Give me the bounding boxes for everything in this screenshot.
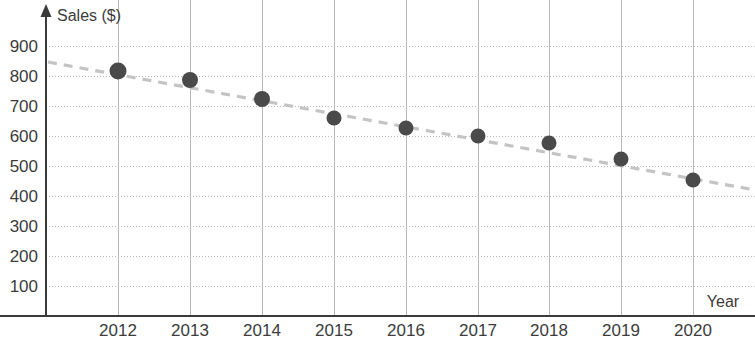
data-point[interactable] [686,173,701,188]
y-tick-label: 400 [10,187,38,206]
x-tick-label: 2014 [243,321,281,340]
data-point[interactable] [182,72,198,88]
x-axis-title: Year [707,293,740,310]
y-tick-label: 100 [10,277,38,296]
data-points [110,63,701,188]
x-tick-label: 2016 [387,321,425,340]
y-tick-label: 500 [10,157,38,176]
data-point[interactable] [254,91,270,107]
chart-screenshot: 100 200 300 400 500 600 700 800 900 2012… [0,0,755,342]
y-axis-arrow-icon [41,4,52,17]
x-tick-label: 2018 [530,321,568,340]
x-tick-label: 2012 [99,321,137,340]
x-tick-label: 2019 [602,321,640,340]
x-axis-tick-labels: 2012 2013 2014 2015 2016 2017 2018 2019 … [99,321,712,340]
x-tick-label: 2020 [674,321,712,340]
sales-vs-year-scatter-chart: 100 200 300 400 500 600 700 800 900 2012… [0,0,755,342]
data-point[interactable] [110,63,127,80]
data-point[interactable] [399,121,414,136]
y-tick-label: 300 [10,217,38,236]
x-tick-label: 2013 [171,321,209,340]
y-tick-label: 200 [10,247,38,266]
y-axis-title: Sales ($) [57,7,121,24]
y-tick-label: 900 [10,37,38,56]
data-point[interactable] [471,129,486,144]
axes [0,4,755,316]
x-tick-label: 2015 [315,321,353,340]
vertical-gridlines [118,0,693,316]
y-tick-label: 600 [10,127,38,146]
x-tick-label: 2017 [459,321,497,340]
y-axis-tick-labels: 100 200 300 400 500 600 700 800 900 [10,37,38,296]
y-tick-label: 800 [10,67,38,86]
y-tick-label: 700 [10,97,38,116]
data-point[interactable] [542,136,557,151]
horizontal-gridlines [46,46,755,286]
data-point[interactable] [614,152,629,167]
data-point[interactable] [327,111,342,126]
